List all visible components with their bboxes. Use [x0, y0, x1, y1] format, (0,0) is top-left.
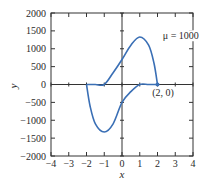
- y-tick-label: −1500: [20, 133, 46, 144]
- y-tick-label: 1000: [26, 43, 46, 54]
- x-tick-label: 4: [191, 158, 196, 169]
- x-tick-label: 1: [137, 158, 142, 169]
- y-tick-label: 1500: [26, 25, 46, 36]
- equilibrium-point-marker: [156, 83, 160, 87]
- y-axis-label: y: [7, 83, 19, 89]
- x-tick-label: −1: [99, 158, 110, 169]
- y-tick-label: 500: [31, 61, 46, 72]
- annotation-label: μ = 1000: [163, 30, 199, 41]
- x-tick-label: −3: [63, 158, 74, 169]
- x-tick-label: 2: [155, 158, 160, 169]
- x-axis-label: x: [119, 168, 125, 180]
- x-tick-label: −4: [46, 158, 57, 169]
- x-tick-label: −2: [81, 158, 92, 169]
- y-tick-label: −2000: [20, 151, 46, 162]
- x-tick-label: 3: [173, 158, 178, 169]
- y-tick-label: −500: [25, 97, 46, 108]
- y-tick-label: −1000: [20, 115, 46, 126]
- y-tick-label: 2000: [26, 8, 46, 19]
- van-der-pol-chart: −4−3−2−1012342000150010005000−500−1000−1…: [0, 0, 205, 188]
- y-tick-label: 0: [41, 79, 46, 90]
- annotation-label: (2, 0): [152, 87, 174, 99]
